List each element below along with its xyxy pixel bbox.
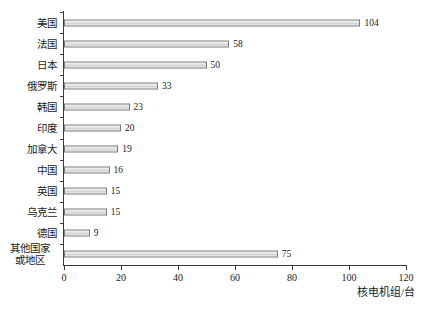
x-axis-title: 核电机组/台 <box>357 286 415 298</box>
x-axis-tick-label: 80 <box>287 272 297 283</box>
category-label-line-2: 或地区 <box>3 254 57 266</box>
y-axis-tick <box>60 12 64 13</box>
category-label: 德国 <box>37 228 57 239</box>
bar-value-label: 19 <box>118 144 132 154</box>
y-axis-tick <box>60 181 64 182</box>
bar-row: 法国 58 <box>64 33 406 54</box>
x-axis-tick <box>349 265 350 270</box>
x-axis-tick-label: 0 <box>62 272 67 283</box>
category-label: 中国 <box>37 165 57 176</box>
bar <box>64 40 229 47</box>
category-label: 其他国家 或地区 <box>3 243 57 266</box>
y-axis-tick <box>60 244 64 245</box>
bar-row: 日本 50 <box>64 54 406 75</box>
y-axis-tick <box>60 75 64 76</box>
category-label: 法国 <box>37 38 57 49</box>
y-axis-tick <box>60 202 64 203</box>
category-label: 英国 <box>37 186 57 197</box>
x-axis-tick-label: 40 <box>173 272 183 283</box>
x-axis-tick <box>121 265 122 270</box>
bar-row: 其他国家 或地区 75 <box>64 244 406 265</box>
bar <box>64 167 110 174</box>
y-axis-tick <box>60 33 64 34</box>
y-axis-tick <box>60 223 64 224</box>
category-label: 印度 <box>37 122 57 133</box>
bar <box>64 103 130 110</box>
x-axis-tick-label: 120 <box>399 272 414 283</box>
bar-row: 美国 104 <box>64 12 406 33</box>
bar-row: 加拿大 19 <box>64 139 406 160</box>
bar <box>64 19 360 26</box>
category-label: 韩国 <box>37 101 57 112</box>
bar-value-label: 9 <box>90 228 99 238</box>
bar-row: 俄罗斯 33 <box>64 75 406 96</box>
plot-area: 美国 104 法国 58 日本 50 俄罗斯 33 韩国 <box>64 12 406 265</box>
category-label: 日本 <box>37 59 57 70</box>
bar-value-label: 50 <box>207 60 221 70</box>
bar-value-label: 15 <box>107 186 121 196</box>
bar-value-label: 16 <box>110 165 124 175</box>
bar-value-label: 104 <box>360 18 378 28</box>
bar <box>64 188 107 195</box>
bar-value-label: 33 <box>158 81 172 91</box>
bar-value-label: 23 <box>130 102 144 112</box>
bar <box>64 209 107 216</box>
bar-row: 韩国 23 <box>64 96 406 117</box>
x-axis-tick <box>64 265 65 270</box>
bar <box>64 124 121 131</box>
bar-chart: 美国 104 法国 58 日本 50 俄罗斯 33 韩国 <box>0 0 433 309</box>
bar-value-label: 20 <box>121 123 135 133</box>
x-axis-tick <box>235 265 236 270</box>
y-axis-tick <box>60 96 64 97</box>
x-axis-tick-label: 60 <box>230 272 240 283</box>
x-axis-tick-label: 100 <box>342 272 357 283</box>
category-label: 加拿大 <box>27 144 57 155</box>
bar <box>64 230 90 237</box>
bar <box>64 146 118 153</box>
bar-value-label: 75 <box>278 249 292 259</box>
bar-value-label: 58 <box>229 39 243 49</box>
bar <box>64 82 158 89</box>
x-axis-tick <box>406 265 407 270</box>
x-axis-tick <box>178 265 179 270</box>
x-axis-tick <box>292 265 293 270</box>
bar-row: 德国 9 <box>64 223 406 244</box>
bar-row: 印度 20 <box>64 117 406 138</box>
category-label: 乌克兰 <box>27 207 57 218</box>
category-label: 美国 <box>37 17 57 28</box>
y-axis-tick <box>60 54 64 55</box>
category-label: 俄罗斯 <box>27 80 57 91</box>
bar <box>64 251 278 258</box>
category-label-line-1: 其他国家 <box>3 243 57 255</box>
bar-row: 中国 16 <box>64 160 406 181</box>
bar <box>64 61 207 68</box>
y-axis-tick <box>60 117 64 118</box>
bar-row: 乌克兰 15 <box>64 202 406 223</box>
x-axis-tick-label: 20 <box>116 272 126 283</box>
y-axis-tick <box>60 160 64 161</box>
y-axis-tick <box>60 139 64 140</box>
bar-row: 英国 15 <box>64 181 406 202</box>
bar-value-label: 15 <box>107 207 121 217</box>
